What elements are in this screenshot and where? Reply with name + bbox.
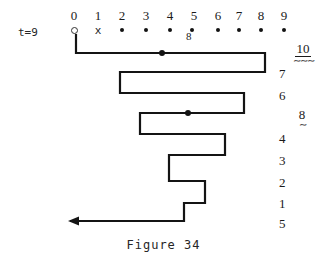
zigzag-polyline [70, 34, 265, 221]
arrow-head-icon [68, 217, 79, 226]
path-node-dot [185, 110, 191, 116]
figure-caption: Figure 34 [0, 238, 327, 252]
path-node-dots [159, 50, 191, 116]
zigzag-path-diagram [0, 0, 327, 265]
path-node-dot [159, 50, 165, 56]
figure-container: t=9 0 1 2 3 4 5 6 7 8 9 x 8 10 ∼∼∼ 7 6 8… [0, 0, 327, 265]
